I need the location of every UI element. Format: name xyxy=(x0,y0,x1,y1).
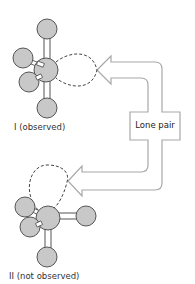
diagram-canvas xyxy=(0,0,195,284)
lone-pair-lobe-i xyxy=(56,54,97,86)
lone-pair-label: Lone pair xyxy=(130,120,180,130)
structure-i-label: I (observed) xyxy=(14,122,65,132)
lone-pair-lobe-ii xyxy=(29,165,67,210)
molecule-i xyxy=(13,19,97,118)
structure-ii-label: II (not observed) xyxy=(9,271,79,281)
